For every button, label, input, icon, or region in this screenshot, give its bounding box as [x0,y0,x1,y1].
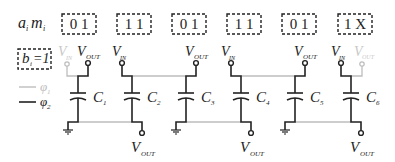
code-box-3: 0 1 [172,14,206,34]
code-box-4: 1 1 [227,14,261,34]
svg-text:1 1: 1 1 [125,16,144,32]
svg-text:IN: IN [228,55,236,61]
svg-text:4: 4 [266,99,270,107]
svg-text:i: i [30,60,32,68]
c6-vout-terminal-gray [360,62,364,66]
code-box-1: 0 1 [62,14,96,34]
svg-text:3: 3 [210,99,215,107]
svg-text:0 1: 0 1 [180,16,199,32]
svg-text:OUT: OUT [194,53,209,61]
svg-text:OUT: OUT [86,53,101,61]
svg-text:OUT: OUT [141,150,156,158]
svg-text:6: 6 [376,99,380,107]
svg-text:0 1: 0 1 [70,16,89,32]
svg-text:2: 2 [47,103,51,111]
code-box-2: 1 1 [117,14,151,34]
svg-text:OUT: OUT [250,150,265,158]
row-label-aimi: a i m i [18,14,45,33]
c1-vin-terminal [65,62,69,66]
svg-text:1 X: 1 X [344,16,366,32]
svg-text:i: i [26,24,28,33]
condition-box: b i =1 [18,49,51,69]
svg-text:=1: =1 [33,51,49,66]
bottom-terminal-labels: V OUT V OUT V OUT [131,139,375,158]
top-terminal-labels: V IN V OUT V IN V OUT V IN V OUT V IN V … [58,44,375,61]
legend: φ 1 φ 2 [19,79,51,111]
svg-text:IN: IN [119,55,127,61]
svg-text:1 1: 1 1 [235,16,254,32]
svg-text:OUT: OUT [360,150,375,158]
switched-capacitor-diagram: a i m i 0 1 1 1 0 1 1 1 0 1 1 X b i =1 φ… [0,0,395,162]
svg-text:m: m [31,14,43,31]
svg-text:IN: IN [338,55,346,61]
code-box-5: 0 1 [282,14,316,34]
svg-text:5: 5 [320,99,324,107]
svg-text:a: a [18,14,26,31]
code-box-6: 1 X [338,14,372,34]
ground-icons [63,130,290,134]
svg-text:OUT: OUT [362,54,375,60]
svg-text:b: b [22,50,30,66]
svg-text:0 1: 0 1 [290,16,309,32]
svg-text:1: 1 [47,88,51,96]
svg-text:i: i [43,24,45,33]
svg-text:1: 1 [103,99,107,107]
svg-text:2: 2 [157,99,161,107]
svg-text:IN: IN [65,55,73,61]
svg-text:OUT: OUT [303,53,318,61]
